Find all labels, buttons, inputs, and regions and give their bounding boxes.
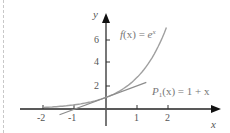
plot-area: [0, 0, 230, 133]
y-tick-label: 4: [94, 56, 99, 67]
x-tick-label: 2: [165, 112, 170, 123]
chart: y x 6 4 2 -2 -1 1 2 f(x) = ex P1(x) = 1 …: [0, 0, 230, 133]
x-tick-label: 1: [134, 112, 139, 123]
exp-function-label: f(x) = ex: [120, 28, 156, 40]
y-tick-label: 6: [94, 34, 99, 45]
x-axis-arrow-icon: [211, 105, 221, 113]
x-axis-label: x: [211, 118, 216, 130]
x-tick-label: -2: [37, 112, 45, 123]
y-axis-label: y: [93, 8, 98, 20]
x-tick-label: -1: [68, 112, 76, 123]
y-tick-label: 2: [94, 80, 99, 91]
tangent-line: [60, 82, 147, 114]
y-axis-arrow-icon: [102, 13, 110, 23]
tangent-function-label: P1(x) = 1 + x: [152, 85, 209, 99]
